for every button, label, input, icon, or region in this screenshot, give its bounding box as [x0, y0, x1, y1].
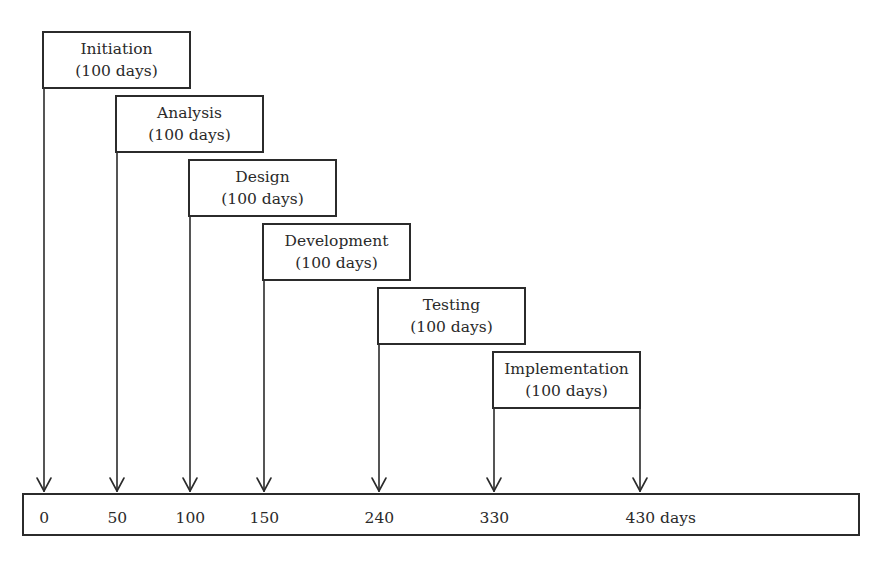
timeline-tick-label: 330 — [480, 509, 510, 527]
phase-name: Design — [235, 168, 289, 186]
phase-duration: (100 days) — [295, 254, 377, 272]
phase-box-testing: Testing(100 days) — [378, 288, 525, 344]
phase-box-design: Design(100 days) — [189, 160, 336, 216]
phase-duration: (100 days) — [75, 62, 157, 80]
phase-box-analysis: Analysis(100 days) — [116, 96, 263, 152]
phase-duration: (100 days) — [221, 190, 303, 208]
phase-duration: (100 days) — [410, 318, 492, 336]
phase-name: Testing — [423, 296, 480, 314]
phase-box-initiation: Initiation(100 days) — [43, 32, 190, 88]
timeline-tick-label: 240 — [365, 509, 395, 527]
phase-timeline-diagram: Initiation(100 days)Analysis(100 days)De… — [0, 0, 885, 575]
timeline-tick-label: 430 days — [626, 509, 696, 527]
timeline-tick-label: 100 — [176, 509, 206, 527]
phase-name: Analysis — [156, 104, 222, 122]
phase-box-implementation: Implementation(100 days) — [493, 352, 640, 408]
phase-boxes: Initiation(100 days)Analysis(100 days)De… — [43, 32, 640, 408]
phase-name: Initiation — [81, 40, 153, 58]
timeline-tick-label: 150 — [250, 509, 280, 527]
timeline-tick-label: 50 — [107, 509, 127, 527]
phase-name: Development — [285, 232, 390, 250]
timeline-tick-label: 0 — [39, 509, 49, 527]
phase-duration: (100 days) — [148, 126, 230, 144]
timeline-bar — [23, 494, 859, 535]
phase-box-development: Development(100 days) — [263, 224, 410, 280]
phase-name: Implementation — [504, 360, 629, 378]
phase-duration: (100 days) — [525, 382, 607, 400]
